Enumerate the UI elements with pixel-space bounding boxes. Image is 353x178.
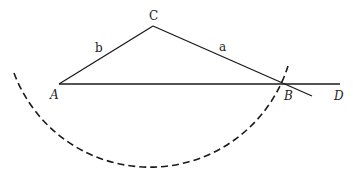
dashed-arc — [14, 66, 288, 167]
label-D: D — [333, 89, 344, 103]
side-b — [59, 26, 153, 84]
label-A: A — [49, 88, 59, 102]
label-B: B — [283, 89, 293, 103]
label-side-a: a — [219, 40, 226, 54]
side-a — [153, 26, 312, 96]
label-C: C — [149, 9, 158, 23]
geometry-diagram: C A B D b a — [0, 0, 353, 178]
label-side-b: b — [95, 41, 103, 55]
